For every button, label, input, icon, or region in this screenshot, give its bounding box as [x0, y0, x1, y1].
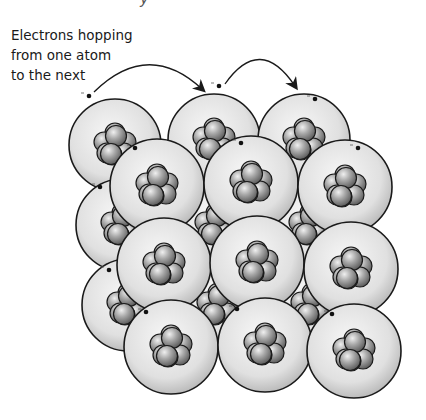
atom [307, 304, 401, 398]
electron [81, 93, 91, 98]
atom [124, 300, 218, 394]
atom [218, 298, 312, 392]
atom [210, 216, 304, 310]
atom [117, 218, 211, 312]
electron [211, 83, 221, 88]
hop-arrow [225, 59, 295, 86]
hop-arrows [94, 59, 295, 92]
atom-lattice-diagram [0, 0, 426, 420]
hop-arrow [94, 65, 202, 92]
atom [304, 222, 398, 316]
front-atom-layer [110, 136, 401, 398]
atom [298, 140, 392, 234]
